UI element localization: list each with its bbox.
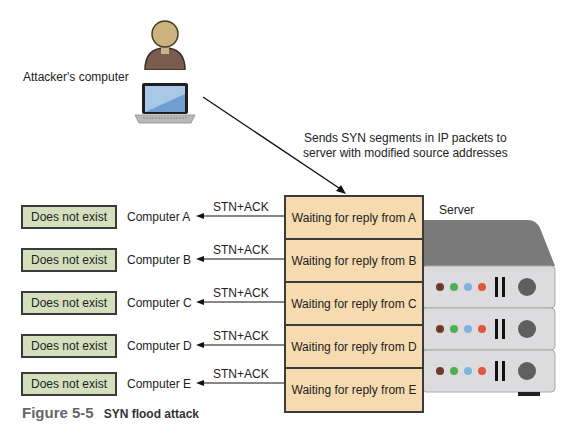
server-label: Server <box>439 203 474 217</box>
computer-a-label: Computer A <box>127 210 190 224</box>
computer-b-label: Computer B <box>127 253 191 267</box>
figure-caption: Figure 5-5SYN flood attack <box>22 404 199 422</box>
computer-e-label: Computer E <box>127 377 191 391</box>
waiting-cell-b: Waiting for reply from B <box>286 240 422 283</box>
does-not-exist-box-c: Does not exist <box>21 291 117 315</box>
server-waiting-queue: Waiting for reply from A Waiting for rep… <box>284 195 424 413</box>
waiting-cell-c: Waiting for reply from C <box>286 283 422 326</box>
computer-d-label: Computer D <box>127 339 192 353</box>
figure-number: Figure 5-5 <box>22 404 94 421</box>
ack-arrow-c <box>196 297 284 307</box>
does-not-exist-box-a: Does not exist <box>21 205 117 229</box>
waiting-cell-d: Waiting for reply from D <box>286 326 422 369</box>
ack-arrow-b <box>196 254 284 264</box>
ack-arrow-e <box>196 378 284 388</box>
server-stack-icon <box>420 218 560 428</box>
computer-c-label: Computer C <box>127 296 192 310</box>
ack-arrow-d <box>196 340 284 350</box>
ack-arrow-a <box>196 211 284 221</box>
does-not-exist-box-d: Does not exist <box>21 334 117 358</box>
waiting-cell-e: Waiting for reply from E <box>286 369 422 411</box>
does-not-exist-box-e: Does not exist <box>21 372 117 396</box>
figure-title: SYN flood attack <box>104 407 199 421</box>
waiting-cell-a: Waiting for reply from A <box>286 197 422 240</box>
does-not-exist-box-b: Does not exist <box>21 248 117 272</box>
